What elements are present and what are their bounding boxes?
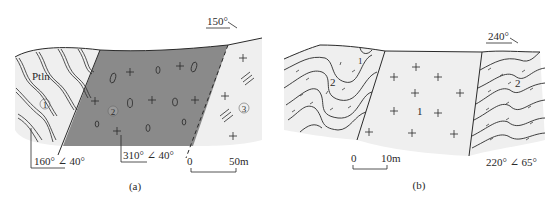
scale-bar-b: 0 10m (351, 152, 401, 169)
svg-text:310° ∠ 40°: 310° ∠ 40° (123, 149, 174, 161)
scale-bar-a: 0 50m (187, 155, 249, 172)
svg-text:2: 2 (111, 107, 116, 117)
label-1-center: 1 (417, 105, 423, 117)
svg-text:10m: 10m (381, 152, 401, 164)
label-2-right: 2 (515, 77, 521, 89)
caption-b: (b) (413, 179, 426, 192)
svg-text:1: 1 (43, 100, 48, 110)
panel-b: 2 1 1 2 24 (284, 30, 545, 192)
svg-text:3: 3 (242, 104, 247, 114)
unit-code-label: Ptln (32, 70, 50, 82)
direction-indicator-a: 150° (206, 15, 237, 28)
panel-a: 1 2 3 Ptln 150° 160° ∠ 40° 310° ∠ 40° 0 … (15, 15, 262, 193)
label-1-small: 1 (358, 56, 363, 66)
svg-text:160° ∠ 40°: 160° ∠ 40° (34, 155, 85, 167)
direction-indicator-b: 240° (486, 30, 518, 43)
label-2-left: 2 (330, 76, 336, 88)
svg-text:240°: 240° (488, 30, 509, 42)
svg-text:0: 0 (351, 152, 357, 164)
attitude-right: 220° ∠ 65° (486, 156, 537, 168)
caption-a: (a) (129, 180, 142, 193)
geology-figure: 1 2 3 Ptln 150° 160° ∠ 40° 310° ∠ 40° 0 … (0, 0, 559, 204)
svg-text:50m: 50m (229, 155, 249, 167)
svg-text:150°: 150° (207, 15, 228, 27)
svg-text:0: 0 (187, 155, 193, 167)
